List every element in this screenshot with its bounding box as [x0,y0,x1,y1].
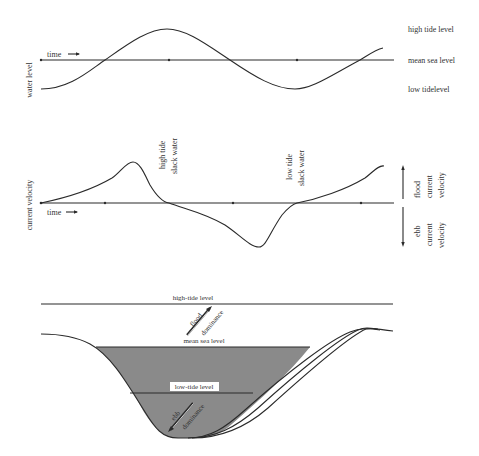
channel-cross-section: high-tide level mean sea level low-tide … [41,294,393,438]
ebb-label-1: ebb [413,225,422,237]
current-velocity-ylabel: current velocity [25,180,34,230]
flood-label: flood [188,311,204,328]
time-label: time [47,50,62,59]
high-tide-slack-label-2: slack water [170,137,179,174]
mean-sea-level-label: mean sea level [183,337,224,345]
current-velocity-panel: current velocity time high tide slack wa… [25,137,446,248]
low-tide-slack-label-2: slack water [297,149,306,186]
water-level-panel: water level time high tide level mean se… [25,25,456,98]
velocity-curve [41,162,384,247]
flood-dominance-arrow: flood dominance [187,306,225,337]
flood-label-2: current [425,175,434,198]
time-label: time [47,208,62,217]
arrowhead-icon [76,52,80,55]
flood-dominance-label: dominance [199,309,225,338]
low-tide-level-label: low-tide level [175,383,214,391]
mean-sea-level-label: mean sea level [408,56,456,65]
high-tide-level-label: high-tide level [173,294,214,302]
arrowhead-icon [74,210,78,213]
high-tide-level-label: high tide level [408,25,455,34]
ebb-label-2: current [425,223,434,246]
flood-label-1: flood [413,181,422,198]
low-tide-level-label: low tidelevel [408,85,450,94]
flood-label-3: velocity [437,172,446,198]
water-level-ylabel: water level [25,62,34,98]
low-tide-slack-label-1: low tide [285,154,294,180]
high-tide-slack-label-1: high tide [158,140,167,169]
water-level-curve [41,29,383,89]
ebb-label-3: velocity [437,222,446,248]
